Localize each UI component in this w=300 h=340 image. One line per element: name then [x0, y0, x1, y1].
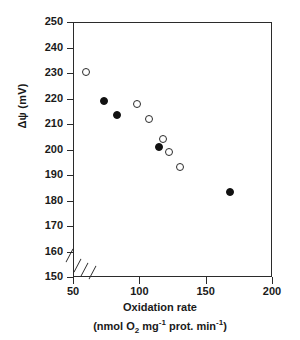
y-tick-label: 190	[3, 169, 63, 180]
y-tick-label: 210	[3, 118, 63, 129]
data-point-filled	[100, 97, 108, 105]
y-tick-mark	[67, 175, 74, 176]
y-tick-mark	[67, 22, 74, 23]
y-tick-mark	[67, 73, 74, 74]
y-tick-label: 170	[3, 220, 63, 231]
data-point-open	[165, 148, 173, 156]
x-tick-label: 150	[183, 286, 229, 297]
data-point-filled	[113, 111, 121, 119]
y-tick-mark	[67, 99, 74, 100]
y-tick-label: 240	[3, 42, 63, 53]
x-axis-caption: Oxidation rate (nmol O2 mg-1 prot. min-1…	[40, 300, 280, 338]
x-unit-suffix: )	[223, 320, 227, 332]
x-unit-prot: prot. min	[166, 320, 216, 332]
y-tick-label: 250	[3, 16, 63, 27]
x-unit-prefix: (nmol O	[93, 320, 135, 332]
x-tick-mark	[272, 277, 273, 284]
y-tick-mark	[67, 124, 74, 125]
y-tick-mark	[67, 150, 74, 151]
y-tick-mark	[67, 226, 74, 227]
x-tick-mark	[206, 277, 207, 284]
scatter-plot-figure: Δψ (mV) 25024023022021020019018017016015…	[0, 0, 300, 340]
data-point-open	[145, 115, 153, 123]
x-unit-mg: mg	[139, 320, 159, 332]
x-tick-mark	[139, 277, 140, 284]
x-tick-label: 50	[50, 286, 96, 297]
data-point-open	[133, 100, 141, 108]
y-tick-label: 180	[3, 195, 63, 206]
y-tick-label: 220	[3, 93, 63, 104]
y-tick-mark	[67, 201, 74, 202]
x-unit-sup-mg: -1	[159, 318, 166, 327]
y-tick-label: 200	[3, 144, 63, 155]
x-axis-caption-line1: Oxidation rate	[123, 301, 197, 313]
y-tick-mark	[67, 48, 74, 49]
x-axis-caption-line2: (nmol O2 mg-1 prot. min-1)	[40, 315, 280, 338]
y-tick-label: 230	[3, 67, 63, 78]
x-tick-label: 200	[249, 286, 295, 297]
y-tick-label: 150	[3, 271, 63, 282]
data-point-filled	[226, 188, 234, 196]
x-tick-mark	[73, 277, 74, 284]
y-tick-label: 160	[3, 246, 63, 257]
x-tick-label: 100	[116, 286, 162, 297]
data-point-open	[82, 68, 90, 76]
